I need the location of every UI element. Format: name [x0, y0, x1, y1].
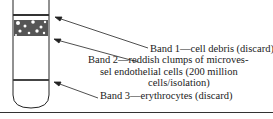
band-2-debris-clump — [14, 20, 48, 36]
band-2-label-line-2: sel endothelial cells (200 million — [100, 66, 238, 77]
band-1-line — [13, 14, 49, 16]
bottom-rule — [0, 112, 273, 113]
band-3-line — [13, 79, 49, 81]
band-2-label-line-3: cells/isolation) — [148, 77, 210, 88]
band-3-label: Band 3—erythrocytes (discard) — [100, 90, 232, 101]
centrifuge-tube — [13, 0, 49, 108]
band-1-label: Band 1—cell debris (discard) — [150, 43, 273, 54]
band-2-label-line-1: Band 2—reddish clumps of microves- — [88, 54, 248, 65]
